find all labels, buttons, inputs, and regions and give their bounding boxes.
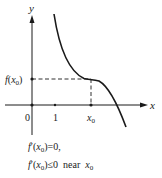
- tick-label-origin: 0: [25, 112, 30, 123]
- point-x0: [89, 103, 92, 106]
- y-axis-label: y: [28, 2, 34, 14]
- y-level-label: f(x0): [5, 74, 22, 87]
- tick-label-x0: x0: [86, 112, 95, 125]
- function-curve: [54, 14, 126, 127]
- point-f-x0: [30, 77, 33, 80]
- caption-line-1: f′(x0)=0,: [28, 141, 61, 154]
- x-axis-label: x: [149, 99, 155, 111]
- graph-canvas: y x 0 1 x0 f(x0) f′(x0)=0, f′(x0)≤0 near…: [0, 0, 162, 178]
- point-one: [54, 104, 56, 106]
- caption-line-2: f′(x0)≤0 near x0: [28, 159, 94, 172]
- tick-label-one: 1: [53, 112, 58, 123]
- x-axis-arrow-icon: [140, 103, 148, 108]
- y-axis-arrow-icon: [30, 15, 35, 23]
- point-origin: [30, 103, 33, 106]
